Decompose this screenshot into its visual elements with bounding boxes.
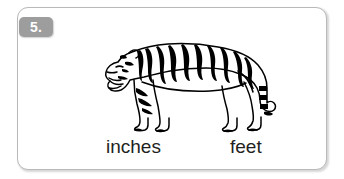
- question-number-label: 5.: [30, 20, 42, 34]
- tiger-illustration: [98, 26, 288, 134]
- answer-option-inches[interactable]: inches: [106, 137, 161, 156]
- answer-options: inches feet: [36, 133, 310, 163]
- question-number-badge: 5.: [19, 17, 53, 37]
- question-card: 5.: [17, 7, 327, 170]
- answer-option-feet[interactable]: feet: [230, 137, 262, 156]
